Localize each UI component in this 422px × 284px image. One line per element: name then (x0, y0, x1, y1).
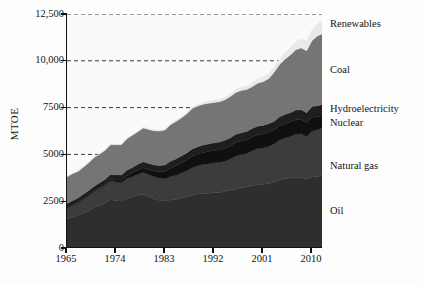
x-tick-label: 2001 (252, 253, 273, 265)
x-tick-label: 1983 (154, 253, 175, 265)
x-tick-label: 1992 (203, 253, 224, 265)
plot-area (66, 14, 322, 248)
x-tick-mark (310, 248, 311, 253)
x-tick-mark (114, 248, 115, 253)
y-tick-label: 5000 (20, 149, 64, 159)
y-axis-tick-labels: 12,50010,0007500500025000 (14, 0, 64, 284)
series-label-nuclear: Nuclear (330, 117, 363, 130)
series-label-natural-gas: Natural gas (330, 160, 378, 173)
x-tick-label: 1965 (56, 253, 77, 265)
chart-container: MTOE 12,50010,0007500500025000 196519741… (0, 0, 422, 284)
y-tick-mark (61, 201, 67, 202)
x-tick-mark (212, 248, 213, 253)
series-label-renewables: Renewables (330, 18, 381, 31)
series-label-coal: Coal (330, 64, 350, 77)
y-tick-mark (61, 60, 67, 61)
x-tick-label: 2010 (301, 253, 322, 265)
y-tick-mark (61, 107, 67, 108)
series-label-oil: Oil (330, 205, 343, 218)
y-tick-label: 10,000 (20, 55, 64, 65)
series-labels: RenewablesCoalHydroelectricityNuclearNat… (330, 0, 422, 284)
x-tick-mark (261, 248, 262, 253)
x-tick-label: 1974 (105, 253, 126, 265)
y-tick-mark (61, 154, 67, 155)
y-tick-label: 0 (20, 243, 64, 253)
series-label-hydroelectricity: Hydroelectricity (330, 103, 399, 116)
y-tick-label: 2500 (20, 196, 64, 206)
y-tick-label: 7500 (20, 102, 64, 112)
stacked-area-svg (67, 14, 322, 248)
y-tick-label: 12,500 (20, 9, 64, 19)
y-tick-mark (61, 13, 67, 14)
x-tick-mark (65, 248, 66, 253)
x-tick-mark (163, 248, 164, 253)
